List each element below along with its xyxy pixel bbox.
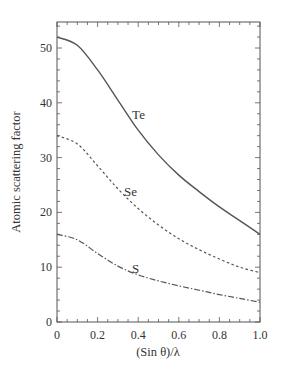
series-label-s: S [132, 261, 139, 276]
plot-frame [57, 22, 260, 322]
series-label-se: Se [124, 184, 137, 199]
x-tick-label: 0.6 [171, 328, 186, 342]
series-label-te: Te [132, 107, 145, 122]
x-tick-label: 0.2 [90, 328, 105, 342]
series-s-line [57, 234, 260, 302]
series-curves [57, 37, 260, 302]
series-te-line [57, 37, 260, 234]
x-tick-label: 0 [54, 328, 60, 342]
y-tick-label: 0 [46, 315, 52, 329]
scattering-factor-chart: 00.20.40.60.81.001020304050 TeSeS (Sin θ… [0, 0, 282, 372]
y-tick-label: 40 [40, 96, 52, 110]
y-tick-label: 50 [40, 41, 52, 55]
y-axis-label: Atomic scattering factor [9, 110, 23, 232]
x-tick-label: 0.8 [212, 328, 227, 342]
x-axis-label: (Sin θ)/λ [136, 345, 180, 359]
x-tick-label: 1.0 [253, 328, 268, 342]
y-tick-label: 20 [40, 205, 52, 219]
axis-ticks [57, 22, 260, 322]
series-labels: TeSeS [124, 107, 145, 275]
y-tick-label: 10 [40, 260, 52, 274]
series-se-line [57, 136, 260, 273]
x-tick-label: 0.4 [131, 328, 146, 342]
y-tick-label: 30 [40, 151, 52, 165]
